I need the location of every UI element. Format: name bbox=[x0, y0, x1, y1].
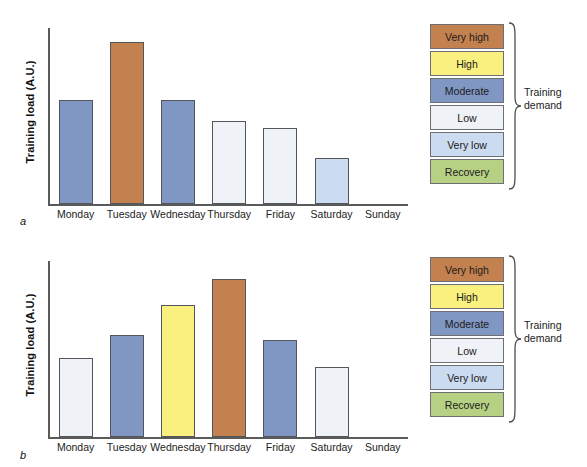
bar-monday bbox=[59, 100, 93, 204]
x-axis-a bbox=[48, 204, 408, 206]
legend-title-line2-a: demand bbox=[524, 99, 584, 112]
legend-swatch-very-low: Very low bbox=[430, 132, 504, 157]
x-label-sunday: Sunday bbox=[345, 208, 421, 220]
legend-swatch-recovery: Recovery bbox=[430, 159, 504, 184]
legend-title-line1-a: Training bbox=[524, 86, 584, 99]
legend-swatch-label: Moderate bbox=[445, 318, 489, 330]
legend-swatch-label: Very low bbox=[447, 372, 487, 384]
legend-swatch-label: Very high bbox=[445, 31, 489, 43]
bar-wednesday bbox=[161, 305, 195, 437]
legend-brace-a bbox=[508, 22, 522, 190]
legend-title-a: Training demand bbox=[524, 86, 584, 111]
legend-brace-b bbox=[508, 255, 522, 423]
legend-swatch-moderate: Moderate bbox=[430, 78, 504, 103]
legend-swatch-label: Low bbox=[457, 345, 476, 357]
y-axis-label-b: Training load (A.U.) bbox=[24, 235, 36, 455]
legend-swatch-label: Very high bbox=[445, 264, 489, 276]
legend-swatch-label: High bbox=[456, 291, 478, 303]
x-label-sunday: Sunday bbox=[345, 441, 421, 453]
y-axis-label-a: Training load (A.U.) bbox=[24, 2, 36, 222]
bar-group-a bbox=[50, 28, 408, 204]
bar-tuesday bbox=[110, 335, 144, 437]
x-axis-b bbox=[48, 437, 408, 439]
panel-b: Training load (A.U.) MondayTuesdayWednes… bbox=[0, 233, 587, 467]
legend-swatch-label: Low bbox=[457, 112, 476, 124]
legend-swatch-very-low: Very low bbox=[430, 365, 504, 390]
legend-swatch-label: Recovery bbox=[445, 399, 489, 411]
legend-swatch-low: Low bbox=[430, 338, 504, 363]
x-tick-labels-a: MondayTuesdayWednesdayThursdayFridaySatu… bbox=[50, 208, 408, 226]
bar-saturday bbox=[315, 158, 349, 204]
bar-tuesday bbox=[110, 42, 144, 204]
panel-letter-a: a bbox=[20, 215, 26, 227]
panel-letter-b: b bbox=[20, 449, 26, 461]
legend-swatch-low: Low bbox=[430, 105, 504, 130]
bar-friday bbox=[263, 340, 297, 437]
legend-swatch-label: Moderate bbox=[445, 85, 489, 97]
bar-thursday bbox=[212, 121, 246, 204]
plot-area-b: Training load (A.U.) MondayTuesdayWednes… bbox=[48, 261, 408, 439]
legend-swatch-label: Very low bbox=[447, 139, 487, 151]
legend-swatch-high: High bbox=[430, 51, 504, 76]
bar-wednesday bbox=[161, 100, 195, 204]
legend-swatch-recovery: Recovery bbox=[430, 392, 504, 417]
legend-title-b: Training demand bbox=[524, 319, 584, 344]
panel-a: Training load (A.U.) MondayTuesdayWednes… bbox=[0, 0, 587, 233]
bar-thursday bbox=[212, 279, 246, 437]
legend-b: Very highHighModerateLowVery lowRecovery bbox=[430, 257, 504, 417]
bar-friday bbox=[263, 128, 297, 204]
bar-group-b bbox=[50, 261, 408, 437]
legend-swatch-high: High bbox=[430, 284, 504, 309]
legend-title-line2-b: demand bbox=[524, 332, 584, 345]
legend-title-line1-b: Training bbox=[524, 319, 584, 332]
legend-swatch-very-high: Very high bbox=[430, 24, 504, 49]
bar-monday bbox=[59, 358, 93, 437]
plot-area-a: Training load (A.U.) MondayTuesdayWednes… bbox=[48, 28, 408, 206]
training-load-figure: Training load (A.U.) MondayTuesdayWednes… bbox=[0, 0, 587, 467]
legend-swatch-label: High bbox=[456, 58, 478, 70]
bar-saturday bbox=[315, 367, 349, 437]
legend-swatch-very-high: Very high bbox=[430, 257, 504, 282]
legend-swatch-moderate: Moderate bbox=[430, 311, 504, 336]
legend-swatch-label: Recovery bbox=[445, 166, 489, 178]
legend-a: Very highHighModerateLowVery lowRecovery bbox=[430, 24, 504, 184]
x-tick-labels-b: MondayTuesdayWednesdayThursdayFridaySatu… bbox=[50, 441, 408, 459]
